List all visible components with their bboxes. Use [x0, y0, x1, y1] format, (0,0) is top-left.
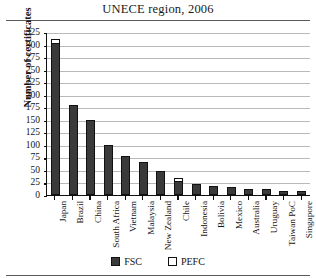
y-tick-label: 175	[0, 104, 40, 113]
x-tick-mark	[177, 196, 178, 200]
bar-stack[interactable]	[86, 120, 95, 195]
bar-stack[interactable]	[139, 162, 148, 195]
bar-segment-fsc[interactable]	[262, 189, 271, 195]
x-label-cell: China	[81, 201, 99, 253]
y-tick-label: 125	[0, 129, 40, 138]
bar-stack[interactable]	[297, 191, 306, 195]
bar-group[interactable]	[117, 33, 135, 195]
bar-group[interactable]	[135, 33, 153, 195]
y-tick-label: 100	[0, 141, 40, 150]
x-tick-mark	[54, 196, 55, 200]
x-tick-mark	[160, 196, 161, 200]
x-tick-mark	[195, 196, 196, 200]
bar-stack[interactable]	[262, 189, 271, 195]
legend-label: FSC	[124, 256, 142, 267]
bar-group[interactable]	[257, 33, 275, 195]
x-tick-mark	[230, 196, 231, 200]
x-tick-label: Singapore	[305, 201, 314, 238]
bar-group[interactable]	[82, 33, 100, 195]
x-label-cell: Bolivia	[204, 201, 222, 253]
legend-swatch-icon	[168, 257, 177, 266]
legend-item[interactable]: FSC	[111, 256, 142, 267]
bar-stack[interactable]	[51, 39, 60, 195]
x-tick-mark	[283, 196, 284, 200]
x-label-cell: New Zealand	[152, 201, 170, 253]
legend-swatch-icon	[111, 257, 120, 266]
bar-group[interactable]	[222, 33, 240, 195]
y-tick-label: 0	[0, 191, 40, 200]
x-tick-mark	[72, 196, 73, 200]
x-tick-mark	[213, 196, 214, 200]
bar-stack[interactable]	[279, 191, 288, 195]
bar-segment-fsc[interactable]	[192, 184, 201, 195]
bar-stack[interactable]	[244, 189, 253, 195]
bar-group[interactable]	[292, 33, 310, 195]
bar-segment-fsc[interactable]	[279, 191, 288, 195]
x-tick-mark	[142, 196, 143, 200]
bar-stack[interactable]	[156, 171, 165, 195]
bar-group[interactable]	[47, 33, 65, 195]
x-label-cell: Taiwan PoC	[275, 201, 293, 253]
x-label-cell: Uruguay	[257, 201, 275, 253]
bar-stack[interactable]	[174, 178, 183, 195]
bar-segment-fsc[interactable]	[244, 189, 253, 195]
chart-title: UNECE region, 2006	[0, 2, 316, 17]
y-tick-label: 50	[0, 166, 40, 175]
x-label-cell: Malaysia	[134, 201, 152, 253]
bottom-divider	[6, 275, 310, 276]
legend-label: PEFC	[181, 256, 205, 267]
bar-group[interactable]	[152, 33, 170, 195]
bar-segment-fsc[interactable]	[139, 162, 148, 195]
bar-segment-fsc[interactable]	[86, 120, 95, 195]
bar-segment-fsc[interactable]	[51, 43, 60, 195]
y-tick-label: 225	[0, 79, 40, 88]
x-label-cell: Singapore	[292, 201, 310, 253]
legend-item[interactable]: PEFC	[168, 256, 205, 267]
x-tick-mark	[89, 196, 90, 200]
bar-segment-fsc[interactable]	[174, 181, 183, 195]
y-tick-label: 200	[0, 91, 40, 100]
x-label-cell: Vietnam	[116, 201, 134, 253]
x-label-cell: South Africa	[99, 201, 117, 253]
bar-stack[interactable]	[227, 187, 236, 195]
x-tick-mark	[265, 196, 266, 200]
bar-group[interactable]	[275, 33, 293, 195]
x-label-cell: Australia	[240, 201, 258, 253]
x-label-cell: Indonesia	[187, 201, 205, 253]
x-label-cell: Mexico	[222, 201, 240, 253]
x-tick-mark	[125, 196, 126, 200]
x-axis-labels: JapanBrazilChinaSouth AfricaVietnamMalay…	[46, 201, 310, 253]
bar-series-container	[47, 33, 310, 195]
bar-segment-fsc[interactable]	[69, 105, 78, 195]
bar-group[interactable]	[100, 33, 118, 195]
x-label-cell: Japan	[46, 201, 64, 253]
bar-segment-fsc[interactable]	[209, 186, 218, 195]
bar-group[interactable]	[240, 33, 258, 195]
bar-group[interactable]	[205, 33, 223, 195]
y-tick-label: 250	[0, 66, 40, 75]
title-divider	[6, 20, 310, 21]
x-label-cell: Brazil	[64, 201, 82, 253]
x-tick-mark	[301, 196, 302, 200]
bar-group[interactable]	[187, 33, 205, 195]
bar-group[interactable]	[170, 33, 188, 195]
bar-segment-fsc[interactable]	[297, 191, 306, 195]
plot-area: 3253002752502252001751501251007550250	[46, 33, 310, 196]
bar-stack[interactable]	[192, 184, 201, 195]
chart-figure: UNECE region, 2006 Number of certificate…	[0, 0, 316, 278]
bar-segment-fsc[interactable]	[104, 145, 113, 195]
bar-stack[interactable]	[209, 186, 218, 195]
y-tick-label: 25	[0, 179, 40, 188]
y-tick-label: 275	[0, 53, 40, 62]
x-tick-mark	[248, 196, 249, 200]
x-tick-mark	[107, 196, 108, 200]
y-tick-label: 300	[0, 41, 40, 50]
bar-stack[interactable]	[69, 105, 78, 195]
bar-segment-fsc[interactable]	[121, 156, 130, 195]
bar-stack[interactable]	[104, 145, 113, 195]
y-tick-label: 150	[0, 116, 40, 125]
bar-group[interactable]	[65, 33, 83, 195]
bar-stack[interactable]	[121, 156, 130, 195]
bar-segment-fsc[interactable]	[227, 187, 236, 195]
bar-segment-fsc[interactable]	[156, 171, 165, 195]
